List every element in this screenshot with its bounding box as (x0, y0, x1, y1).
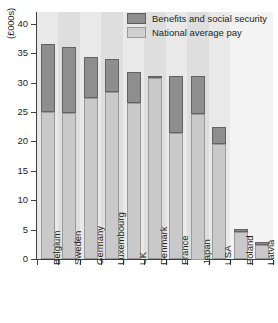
chart-legend: Benefits and social security National av… (127, 13, 267, 38)
bar-segment-national-pay (191, 114, 205, 260)
x-axis-label-germany: Germany (95, 226, 105, 265)
y-axis-tick-label: 0 (0, 254, 28, 264)
y-axis-tick-label: 25 (0, 107, 28, 117)
bar-segment-benefits (127, 72, 141, 103)
legend-item-national-pay: National average pay (127, 27, 267, 38)
y-axis-tick (31, 259, 36, 260)
y-axis-tick-label: 10 (0, 195, 28, 205)
y-axis-tick (31, 112, 36, 113)
bar (191, 76, 205, 259)
bar (62, 47, 76, 259)
y-axis-tick-label: 20 (0, 136, 28, 146)
x-axis-label-france: France (180, 235, 190, 265)
bar-segment-national-pay (127, 103, 141, 259)
y-axis-tick (31, 230, 36, 231)
bar (127, 72, 141, 259)
bar (169, 76, 183, 259)
x-axis-label-poland: Poland (245, 235, 255, 265)
bar-segment-benefits (191, 76, 205, 114)
x-axis-label-belgium: Belgium (52, 231, 62, 265)
stacked-bar-chart: (£000s) 0510152025303540 BelgiumSwedenGe… (0, 0, 278, 323)
bar-segment-national-pay (212, 144, 226, 259)
bar-segment-benefits (105, 59, 119, 92)
y-axis-tick (31, 53, 36, 54)
y-axis-tick (31, 171, 36, 172)
y-axis-tick (31, 24, 36, 25)
bar-segment-benefits (41, 44, 55, 112)
bar-segment-benefits (169, 76, 183, 133)
x-axis-label-usa: USA (223, 245, 233, 265)
x-axis-tick (37, 260, 38, 265)
y-axis-tick-label: 15 (0, 166, 28, 176)
dark-gray-swatch (127, 13, 146, 24)
x-axis-label-denmark: Denmark (159, 226, 169, 265)
background-band (230, 12, 251, 259)
light-gray-swatch (127, 27, 146, 38)
bar-segment-benefits (212, 127, 226, 144)
x-axis-label-uk: UK (138, 252, 148, 265)
bar-segment-benefits (62, 47, 76, 113)
x-axis-label-japan: Japan (202, 239, 212, 265)
x-axis-label-luxembourg: Luxembourg (116, 212, 126, 265)
y-axis-line (36, 12, 37, 260)
x-axis-label-sweden: Sweden (73, 231, 83, 265)
y-axis-tick (31, 141, 36, 142)
y-axis-tick (31, 83, 36, 84)
x-axis-label-latvia: Latvia (266, 240, 276, 265)
y-axis-tick-label: 35 (0, 48, 28, 58)
bar-segment-benefits (84, 57, 98, 98)
y-axis-tick-label: 40 (0, 19, 28, 29)
bar (212, 127, 226, 259)
y-axis-tick (31, 200, 36, 201)
y-axis-tick-label: 5 (0, 225, 28, 235)
legend-label-national-pay: National average pay (152, 28, 242, 38)
y-axis-tick-label: 30 (0, 78, 28, 88)
bar (41, 44, 55, 259)
legend-label-benefits: Benefits and social security (152, 14, 267, 24)
legend-item-benefits: Benefits and social security (127, 13, 267, 24)
